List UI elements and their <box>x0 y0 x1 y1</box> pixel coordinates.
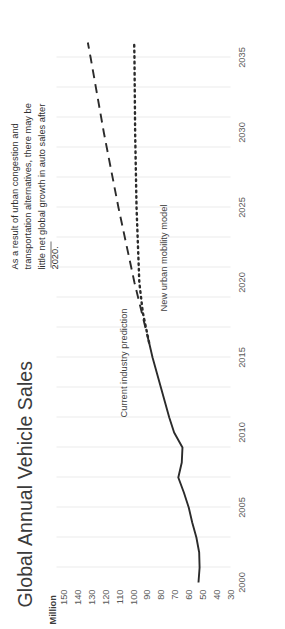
x-axis-tick-label: 2030 <box>236 122 246 143</box>
x-axis-tick-label: 2025 <box>236 197 246 218</box>
x-axis-tick-label: 2000 <box>236 572 246 593</box>
y-axis-tick-label: 110 <box>114 589 124 615</box>
series-line <box>149 342 200 582</box>
x-axis-tick-label: 2015 <box>236 347 246 368</box>
x-axis-tick-label: 2005 <box>236 497 246 518</box>
series-label-new-urban-mobility-model: New urban mobility model <box>158 204 168 311</box>
y-axis-tick-label: 150 <box>58 589 68 615</box>
x-axis-tick-label: 2035 <box>236 47 246 68</box>
series-lines <box>56 42 230 582</box>
y-axis-tick-label: 130 <box>86 589 96 615</box>
y-axis-tick-label: 80 <box>155 589 165 615</box>
y-axis-tick-label: 140 <box>72 589 82 615</box>
y-axis-tick-label: 60 <box>183 589 193 615</box>
y-axis-tick-label: 50 <box>197 589 207 615</box>
y-axis-tick-label: 30 <box>225 589 235 615</box>
x-axis-tick-label: 2020 <box>236 272 246 293</box>
rotated-figure-frame: Global Annual Vehicle Sales 200020052010… <box>0 0 285 629</box>
series-label-current-industry-prediction: Current industry prediction <box>118 308 128 417</box>
series-line <box>134 42 149 342</box>
y-axis-tick-label: 90 <box>141 589 151 615</box>
chart-figure: Global Annual Vehicle Sales 200020052010… <box>0 0 285 629</box>
page-title: Global Annual Vehicle Sales <box>13 360 36 607</box>
x-axis-tick-label: 2010 <box>236 422 246 443</box>
series-line <box>87 42 148 342</box>
y-axis-tick-label: 120 <box>100 589 110 615</box>
y-axis-tick-label: 100 <box>128 589 138 615</box>
y-axis-tick-label: 40 <box>211 589 221 615</box>
plot-area <box>56 42 230 582</box>
y-axis-tick-label: 70 <box>169 589 179 615</box>
chart-annotation: As a result of urban congestion and tran… <box>8 101 62 269</box>
y-axis-unit-label: Million <box>47 595 57 624</box>
